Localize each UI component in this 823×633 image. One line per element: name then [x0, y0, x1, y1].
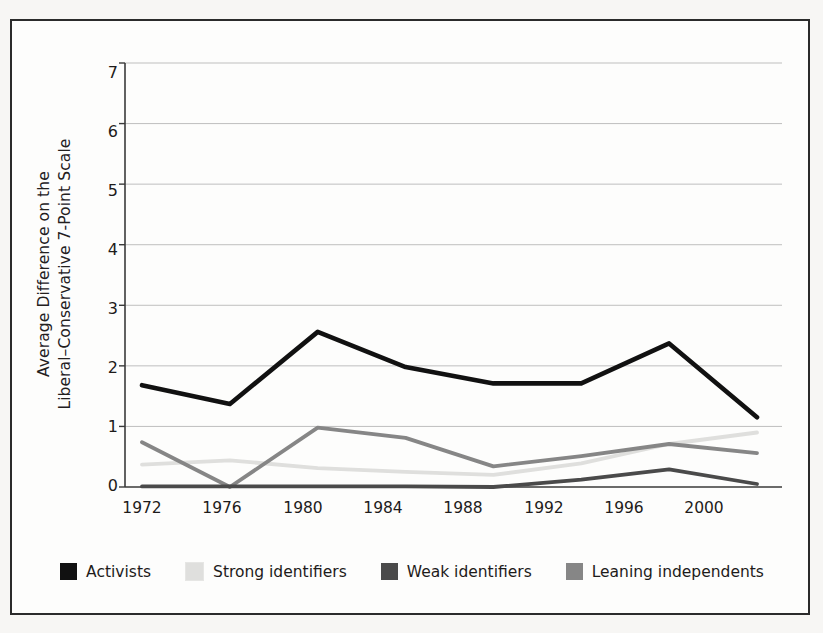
legend-item-leaning-independents: Leaning independents [566, 563, 764, 581]
x-tick-1980: 1980 [273, 499, 333, 517]
legend-swatch-strong-identifiers [185, 562, 204, 581]
x-tick-2000: 2000 [674, 499, 734, 517]
axis-lines [125, 63, 782, 487]
series-line [142, 332, 757, 417]
legend-label-strong-identifiers: Strong identifiers [213, 563, 347, 581]
legend-swatch-weak-identifiers [381, 563, 398, 580]
chart-legend: Activists Strong identifiers Weak identi… [12, 562, 812, 581]
legend-label-weak-identifiers: Weak identifiers [407, 563, 532, 581]
x-tick-1976: 1976 [192, 499, 252, 517]
legend-item-weak-identifiers: Weak identifiers [381, 563, 532, 581]
gridlines [119, 63, 782, 487]
legend-label-leaning-independents: Leaning independents [592, 563, 764, 581]
x-tick-1988: 1988 [433, 499, 493, 517]
x-tick-1996: 1996 [594, 499, 654, 517]
legend-item-strong-identifiers: Strong identifiers [185, 562, 347, 581]
x-tick-1984: 1984 [353, 499, 413, 517]
series-line [142, 428, 757, 487]
data-series [142, 332, 757, 487]
legend-swatch-activists [60, 563, 77, 580]
plot-area [12, 21, 812, 617]
x-tick-1992: 1992 [514, 499, 574, 517]
legend-label-activists: Activists [86, 563, 151, 581]
chart-frame: Average Difference on the Liberal–Conser… [10, 19, 810, 615]
legend-item-activists: Activists [60, 563, 151, 581]
legend-swatch-leaning-independents [566, 563, 583, 580]
figure-canvas: Average Difference on the Liberal–Conser… [0, 0, 823, 633]
x-tick-1972: 1972 [112, 499, 172, 517]
